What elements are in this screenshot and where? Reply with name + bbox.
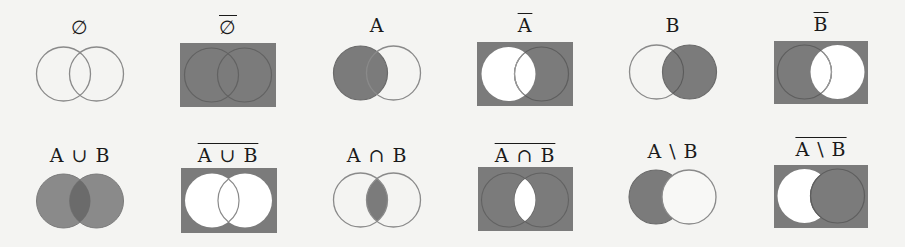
venn-union <box>6 124 154 247</box>
panel-difference: A \ B <box>599 124 747 247</box>
venn-b <box>599 0 747 123</box>
panel-b-complement: B <box>747 0 895 123</box>
panel-difference-complement: A \ B <box>747 124 895 247</box>
panel-union-complement: A ∪ B <box>154 124 302 247</box>
panel-a-complement: A <box>451 0 599 123</box>
venn-intersection-complement <box>451 124 599 247</box>
panel-union: A ∪ B <box>6 124 154 247</box>
panel-intersection-complement: A ∩ B <box>451 124 599 247</box>
venn-empty <box>6 0 154 123</box>
venn-b-complement <box>747 0 895 123</box>
panel-a: A <box>303 0 451 123</box>
panel-empty-complement: ∅ <box>154 0 302 123</box>
venn-difference-complement <box>747 124 895 247</box>
panel-b: B <box>599 0 747 123</box>
venn-difference <box>599 124 747 247</box>
venn-a <box>303 0 451 123</box>
venn-a-complement <box>451 0 599 123</box>
panel-intersection: A ∩ B <box>303 124 451 247</box>
venn-empty-complement <box>154 0 302 123</box>
venn-intersection <box>303 124 451 247</box>
venn-union-complement <box>154 124 302 247</box>
panel-empty: ∅ <box>6 0 154 123</box>
